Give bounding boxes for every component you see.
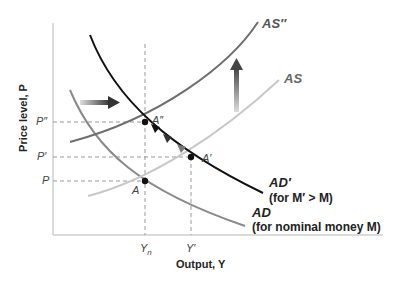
label-a-prime: A′: [202, 152, 211, 164]
tick-p-prime: P′: [37, 150, 46, 162]
label-a-double-prime: A″: [152, 114, 163, 126]
tick-p: P: [42, 174, 49, 186]
point-a: [142, 178, 148, 184]
as-curve: [88, 80, 279, 196]
as-double-prime-curve: [70, 22, 258, 142]
ad-curve: [70, 90, 245, 226]
label-as-double-prime: AS″: [262, 16, 286, 31]
label-ad-prime-note: (for M′ > M): [269, 191, 333, 205]
tick-yn: Yn: [140, 242, 152, 257]
label-ad: AD: [252, 205, 271, 220]
ad-prime-curve: [90, 35, 263, 193]
label-ad-note: (for nominal money M): [252, 220, 381, 234]
x-axis-label: Output, Y: [176, 258, 225, 270]
point-a-prime: [188, 154, 194, 160]
tick-y-prime: Y′: [186, 242, 195, 254]
label-as: AS: [284, 71, 302, 86]
guide-lines: [53, 44, 191, 235]
tick-p-double-prime: P″: [36, 115, 47, 127]
as-shift-arrow: [230, 58, 243, 112]
label-a: A: [132, 184, 139, 196]
ad-shift-arrow: [80, 96, 120, 109]
diagram-canvas: [0, 0, 395, 287]
label-ad-prime: AD′: [269, 175, 291, 190]
adjustment-arrows: [151, 124, 186, 153]
point-a-double-prime: [142, 119, 148, 125]
y-axis-label: Price level, P: [17, 68, 29, 168]
